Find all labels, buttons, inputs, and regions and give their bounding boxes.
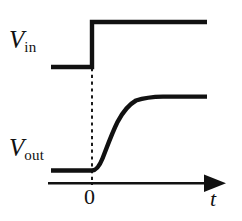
step-response-figure: Vin Vout 0 t [0, 0, 242, 221]
vin-subscript: in [24, 39, 36, 55]
vin-label: Vin [9, 27, 36, 55]
vout-exponential-waveform [51, 97, 207, 171]
vout-label: Vout [9, 135, 44, 163]
time-axis-label: t [210, 188, 216, 210]
vin-step-waveform [51, 22, 207, 67]
vout-subscript: out [24, 147, 44, 163]
origin-label: 0 [84, 186, 95, 208]
vout-symbol: V [9, 134, 24, 161]
vin-symbol: V [9, 26, 24, 53]
